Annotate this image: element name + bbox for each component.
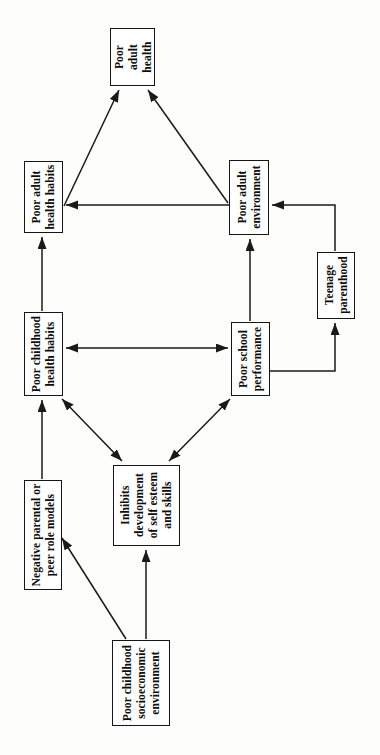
edge-school-performance-to-teenage-parenthood [270, 323, 335, 371]
node-poor-adult-health-habits[interactable]: Poor adult health habits [24, 161, 63, 233]
node-inhibits-development-of-self-esteem-and-skills[interactable]: Inhibits development of self esteem and … [113, 465, 180, 546]
node-poor-school-performance[interactable]: Poor school performance [231, 322, 270, 396]
node-label: Poor childhood health habits [29, 316, 57, 392]
edge-socioeconomic-to-role-models [62, 538, 126, 639]
node-teenage-parenthood[interactable]: Teenage parenthood [317, 252, 355, 319]
node-label: Poor adult health [111, 41, 153, 72]
node-negative-parental-or-peer-role-models[interactable]: Negative parental or peer role models [24, 480, 62, 590]
node-label: Poor school performance [236, 327, 264, 391]
node-poor-adult-environment[interactable]: Poor adult environment [229, 160, 269, 235]
node-poor-adult-health[interactable]: Poor adult health [110, 28, 155, 86]
edge-teenage-parenthood-to-adult-environment [272, 205, 335, 251]
node-label: Poor adult environment [235, 166, 263, 230]
edge-adult-environment-to-adult-health [148, 90, 228, 203]
node-label: Poor childhood socioeconomic environment [120, 645, 162, 721]
edge-inhibits-development-and-school-performance [169, 399, 230, 461]
node-label: Poor adult health habits [29, 165, 57, 230]
flowchart-diagram: Poor adult health Poor adult health habi… [0, 0, 380, 755]
node-poor-childhood-health-habits[interactable]: Poor childhood health habits [24, 312, 63, 396]
node-poor-childhood-socioeconomic-environment[interactable]: Poor childhood socioeconomic environment [112, 640, 170, 726]
edge-adult-health-habits-to-adult-health [64, 90, 119, 206]
node-label: Inhibits development of self esteem and … [118, 472, 174, 539]
node-label: Negative parental or peer role models [29, 484, 57, 587]
edge-inhibits-development-and-childhood-health-habits [62, 399, 122, 461]
node-label: Teenage parenthood [322, 257, 350, 315]
